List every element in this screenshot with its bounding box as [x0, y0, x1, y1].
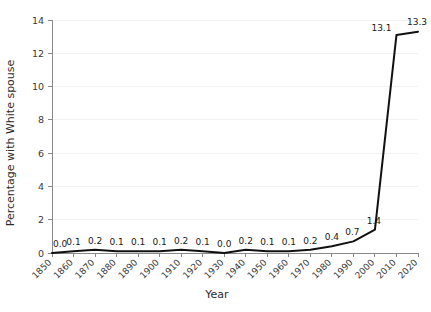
x-tick-label: 1880: [95, 257, 118, 280]
x-tick-label: 2020: [396, 257, 419, 280]
x-tick-labels: 1850186018701880189019001910192019301940…: [30, 257, 419, 280]
data-point-label: 0.1: [282, 237, 296, 247]
data-point-label: 0.1: [131, 237, 145, 247]
y-tick-label: 8: [38, 114, 44, 125]
y-axis-title: Percentage with White spouse: [4, 59, 17, 226]
x-tick-label: 1860: [52, 257, 75, 280]
y-tick-label: 2: [38, 214, 44, 225]
y-tick-label: 6: [38, 148, 44, 159]
chart-container: 1850186018701880189019001910192019301940…: [0, 0, 431, 312]
x-tick-label: 1890: [116, 257, 139, 280]
y-tick-label: 12: [32, 48, 44, 59]
x-tick-label: 1910: [159, 257, 182, 280]
data-point-label: 0.4: [325, 232, 340, 242]
y-tick-label: 14: [32, 15, 44, 26]
y-tick-label: 0: [38, 248, 44, 259]
data-point-label: 0.1: [66, 237, 80, 247]
x-tick-label: 1940: [224, 257, 247, 280]
x-tick-label: 1950: [245, 257, 268, 280]
x-tick-label: 2000: [353, 257, 376, 280]
data-point-label: 0.0: [217, 239, 232, 249]
x-tick-label: 1960: [267, 257, 290, 280]
gridlines: [52, 20, 418, 220]
data-point-label: 13.1: [371, 23, 391, 33]
data-point-label: 0.1: [109, 237, 123, 247]
data-point-label: 0.2: [303, 236, 317, 246]
x-tick-label: 1980: [310, 257, 333, 280]
x-axis-title: Year: [204, 288, 229, 301]
data-point-label: 0.1: [260, 237, 274, 247]
line-chart: 1850186018701880189019001910192019301940…: [0, 0, 431, 312]
x-tick-label: 1850: [30, 257, 53, 280]
y-tick-label: 4: [38, 181, 44, 192]
x-tick-label: 2010: [375, 257, 398, 280]
x-tick-label: 1870: [73, 257, 96, 280]
x-tick-label: 1970: [288, 257, 311, 280]
x-axis: [52, 253, 418, 257]
x-tick-label: 1920: [181, 257, 204, 280]
x-tick-label: 1930: [202, 257, 225, 280]
data-point-label: 0.7: [345, 227, 359, 237]
y-tick-label: 10: [32, 81, 44, 92]
data-point-label: 0.2: [174, 236, 188, 246]
data-point-label: 13.3: [407, 17, 427, 27]
x-tick-label: 1900: [138, 257, 161, 280]
data-point-label: 0.2: [88, 236, 102, 246]
data-point-labels: 0.00.10.20.10.10.10.20.10.00.20.10.10.20…: [53, 17, 427, 249]
y-axis: [48, 20, 52, 253]
data-point-label: 0.1: [196, 237, 210, 247]
data-point-label: 0.1: [152, 237, 166, 247]
y-tick-labels: 02468101214: [32, 15, 44, 259]
data-point-label: 0.2: [239, 236, 253, 246]
x-tick-label: 1990: [332, 257, 355, 280]
data-point-label: 1.4: [367, 216, 382, 226]
